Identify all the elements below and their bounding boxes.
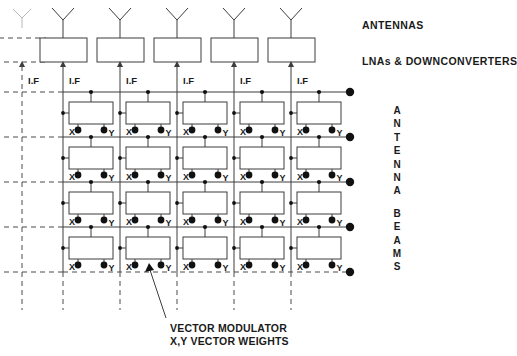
- antenna-beams-char: S: [389, 260, 405, 273]
- x-port-dot: [246, 127, 253, 134]
- x-port-label: X: [183, 172, 189, 182]
- beam-output-dot: [346, 133, 354, 141]
- modulator-output-junction: [317, 90, 321, 94]
- x-port-label: X: [183, 127, 189, 137]
- x-port-dot: [75, 217, 82, 224]
- antenna-beams-char: N: [389, 117, 405, 130]
- lna-downconverter-box: [40, 38, 87, 62]
- vector-modulator-box: [126, 147, 170, 169]
- x-port-dot: [132, 217, 139, 224]
- modulator-output-junction: [317, 135, 321, 139]
- x-port-label: X: [297, 262, 303, 272]
- antenna-arm-right: [177, 8, 188, 20]
- x-port-dot: [189, 262, 196, 269]
- if-label: I.F: [28, 75, 39, 86]
- vector-modulator-caption-line2: X,Y VECTOR WEIGHTS: [170, 335, 289, 347]
- y-port-label: Y: [223, 218, 229, 228]
- antenna-arm-left: [280, 8, 291, 20]
- modulator-output-junction: [89, 135, 93, 139]
- antenna-arm-left: [223, 8, 234, 20]
- y-port-label: Y: [280, 173, 286, 183]
- antenna-beams-char: N: [389, 158, 405, 171]
- x-port-dot: [132, 262, 139, 269]
- modulator-input-junction: [232, 201, 236, 205]
- x-port-label: X: [297, 172, 303, 182]
- y-port-dot: [101, 127, 108, 134]
- x-port-dot: [75, 127, 82, 134]
- x-port-label: X: [126, 262, 132, 272]
- x-port-label: X: [69, 262, 75, 272]
- modulator-output-junction: [317, 225, 321, 229]
- modulator-output-junction: [146, 180, 150, 184]
- y-port-label: Y: [166, 263, 172, 273]
- vector-modulator-box: [297, 237, 341, 259]
- vector-modulator-box: [240, 147, 284, 169]
- modulator-input-junction: [118, 201, 122, 205]
- modulator-output-junction: [146, 90, 150, 94]
- x-port-dot: [303, 172, 310, 179]
- y-port-dot: [272, 172, 279, 179]
- antenna-beams-char: T: [389, 131, 405, 144]
- antenna-arm-right: [234, 8, 245, 20]
- x-port-label: X: [69, 127, 75, 137]
- y-port-dot: [158, 217, 165, 224]
- vector-modulator-box: [126, 237, 170, 259]
- modulator-output-junction: [260, 90, 264, 94]
- y-port-label: Y: [223, 173, 229, 183]
- modulator-output-junction: [203, 180, 207, 184]
- vector-modulator-box: [240, 192, 284, 214]
- modulator-output-junction: [203, 90, 207, 94]
- y-port-label: Y: [223, 128, 229, 138]
- if-label: I.F: [69, 75, 80, 86]
- beam-output-dot: [346, 88, 354, 96]
- modulator-output-junction: [89, 225, 93, 229]
- y-port-label: Y: [109, 218, 115, 228]
- antenna-arm-right: [120, 8, 131, 20]
- x-port-dot: [303, 262, 310, 269]
- antenna-beams-char: B: [389, 207, 405, 220]
- modulator-input-junction: [61, 246, 65, 250]
- x-port-dot: [303, 127, 310, 134]
- modulator-input-junction: [175, 246, 179, 250]
- x-port-dot: [189, 172, 196, 179]
- antenna-arm-right: [291, 8, 302, 20]
- x-port-dot: [246, 262, 253, 269]
- antenna-beams-char: A: [389, 234, 405, 247]
- beam-output-dot: [346, 178, 354, 186]
- antenna-beams-char: N: [389, 171, 405, 184]
- antenna-beams-char: E: [389, 220, 405, 233]
- antenna-arm-left: [166, 8, 177, 20]
- modulator-input-junction: [289, 201, 293, 205]
- x-port-label: X: [297, 217, 303, 227]
- antenna-beams-vertical-label: ANTENNABEAMS: [389, 104, 405, 274]
- modulator-input-junction: [61, 111, 65, 115]
- y-port-dot: [329, 262, 336, 269]
- modulator-input-junction: [61, 201, 65, 205]
- antenna-beams-char: A: [389, 184, 405, 197]
- y-port-dot: [158, 172, 165, 179]
- modulator-input-junction: [289, 111, 293, 115]
- y-port-dot: [215, 217, 222, 224]
- x-port-dot: [75, 172, 82, 179]
- antenna-arm-left: [109, 8, 120, 20]
- y-port-label: Y: [337, 263, 343, 273]
- modulator-output-junction: [317, 180, 321, 184]
- y-port-label: Y: [280, 128, 286, 138]
- vector-modulator-caption-line1: VECTOR MODULATOR: [170, 322, 287, 334]
- y-port-label: Y: [166, 128, 172, 138]
- y-port-label: Y: [280, 218, 286, 228]
- x-port-label: X: [297, 127, 303, 137]
- lna-downconverter-box: [154, 38, 201, 62]
- modulator-input-junction: [175, 156, 179, 160]
- if-label: I.F: [240, 75, 251, 86]
- y-port-dot: [272, 262, 279, 269]
- modulator-input-junction: [61, 156, 65, 160]
- x-port-dot: [246, 217, 253, 224]
- x-port-label: X: [240, 217, 246, 227]
- y-port-label: Y: [109, 128, 115, 138]
- if-label: I.F: [126, 75, 137, 86]
- vector-modulator-box: [183, 102, 227, 124]
- x-port-dot: [189, 217, 196, 224]
- y-port-label: Y: [337, 128, 343, 138]
